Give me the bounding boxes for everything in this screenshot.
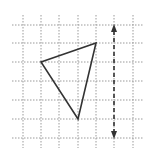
grid-lines <box>12 15 143 148</box>
grid-diagram <box>0 0 151 158</box>
